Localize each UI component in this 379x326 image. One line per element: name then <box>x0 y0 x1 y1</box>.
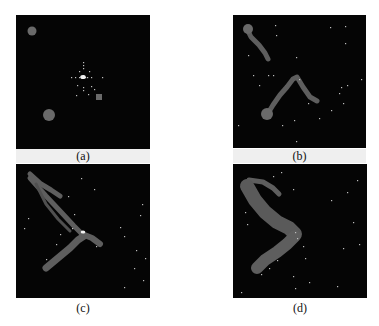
particle-dot <box>140 215 141 216</box>
panel-b-image <box>233 15 366 148</box>
panel-b-plot <box>233 15 366 148</box>
panel-a-image <box>16 15 150 149</box>
panel-d-plot <box>233 164 367 298</box>
particle-dot <box>282 125 283 126</box>
panel-c-plot <box>16 164 150 298</box>
particle-dot <box>345 26 346 27</box>
particle-dot <box>28 218 29 219</box>
particle-dot <box>79 71 80 72</box>
panel-d-caption: (d) <box>233 301 367 315</box>
particle-dot <box>343 103 344 104</box>
particle-dot <box>277 260 278 261</box>
trail-stroke <box>247 186 295 234</box>
center-particle <box>80 75 86 79</box>
particle-dot <box>361 79 362 80</box>
particle-dot <box>56 244 57 245</box>
particle-dot <box>89 71 90 72</box>
particle-dot <box>81 178 82 179</box>
particle-dot <box>247 224 248 225</box>
particle-dot <box>94 189 95 190</box>
square-object <box>96 94 102 100</box>
particle-dot <box>88 94 89 95</box>
particle-dot <box>134 268 135 269</box>
panel-c-caption: (c) <box>16 301 150 315</box>
particle-dot <box>295 232 296 233</box>
particle-dot <box>68 196 69 197</box>
particle-dot <box>303 246 304 247</box>
particle-dot <box>75 77 76 78</box>
particle-dot <box>124 287 125 288</box>
particle-dot <box>96 246 97 247</box>
particle-dot <box>24 228 25 229</box>
particle-dot <box>293 189 294 190</box>
particle-dot <box>359 244 360 245</box>
particle-dot <box>124 236 125 237</box>
particle-dot <box>91 77 92 78</box>
panel-a-caption: (a) <box>16 149 150 163</box>
particle-dot <box>331 110 332 111</box>
particle-dot <box>79 77 80 78</box>
particle-dot <box>91 86 92 87</box>
particle-dot <box>343 248 344 249</box>
particle-dot <box>309 282 310 283</box>
particle-dot <box>347 85 348 86</box>
center-particle <box>81 231 86 234</box>
particle-dot <box>305 258 306 259</box>
particle-dot <box>87 77 88 78</box>
panel-d-image <box>233 164 367 298</box>
particle-dot <box>276 35 277 36</box>
particle-dot <box>331 200 332 201</box>
particle-dot <box>259 85 260 86</box>
particle-dot <box>341 87 342 88</box>
particle-dot <box>102 77 103 78</box>
particle-dot <box>269 268 270 269</box>
particle-dot <box>296 57 297 58</box>
particle-dot <box>83 65 84 66</box>
particle-dot <box>297 238 298 239</box>
trail-stroke <box>267 77 317 115</box>
particle-dot <box>296 141 297 142</box>
particle-dot <box>253 75 254 76</box>
particle-dot <box>299 79 300 80</box>
particle-dot <box>94 89 95 90</box>
particle-dot <box>245 212 246 213</box>
particle-dot <box>357 180 358 181</box>
particle-dot <box>345 43 346 44</box>
particle-dot <box>293 276 294 277</box>
particle-dot <box>120 227 121 228</box>
particle-dot <box>319 118 320 119</box>
particle-dot <box>241 292 242 293</box>
particle-dot <box>77 85 78 86</box>
particle-dot <box>337 286 338 287</box>
particle-dot <box>248 55 249 56</box>
particle-dot <box>136 250 137 251</box>
trail-stroke <box>257 236 295 268</box>
particle-dot <box>275 25 276 26</box>
disc-object <box>243 24 253 34</box>
particle-dot <box>238 125 239 126</box>
particle-dot <box>261 274 262 275</box>
particle-dot <box>308 103 309 104</box>
particle-dot <box>83 68 84 69</box>
particle-dot <box>273 176 274 177</box>
particle-dot <box>83 87 84 88</box>
panel-b-caption: (b) <box>233 149 366 163</box>
particle-dot <box>347 192 348 193</box>
particle-dot <box>76 95 77 96</box>
particle-dot <box>145 258 146 259</box>
disc-object <box>261 108 273 120</box>
trail-stroke <box>46 236 84 268</box>
particle-dot <box>353 222 354 223</box>
particle-dot <box>72 228 73 229</box>
particle-dot <box>83 90 84 91</box>
disc-object <box>28 27 37 36</box>
particle-dot <box>330 27 331 28</box>
particle-dot <box>273 75 274 76</box>
disc-object <box>43 109 55 121</box>
particle-dot <box>295 288 296 289</box>
particle-dot <box>83 62 84 63</box>
particle-dot <box>46 259 47 260</box>
panel-c-image <box>16 164 150 298</box>
particle-dot <box>339 93 340 94</box>
particle-dot <box>268 75 269 76</box>
